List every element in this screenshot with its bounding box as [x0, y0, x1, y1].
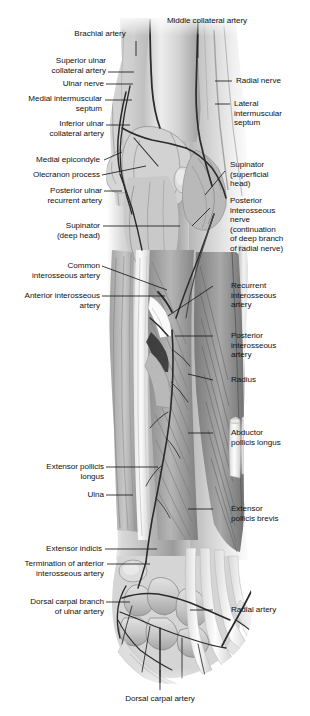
label-abductor-pollicis-longus: Abductor pollicis longus	[231, 428, 307, 447]
label-medial-intermuscular-septum: Medial intermuscular septum	[2, 94, 102, 113]
label-radius: Radius	[231, 375, 301, 385]
label-inferior-ulnar-collateral-artery: Inferior ulnar collateral artery	[8, 119, 104, 138]
anatomical-figure: Brachial artery Middle collateral artery…	[0, 0, 310, 716]
label-lateral-intermuscular-septum: Lateral intermuscular septum	[234, 99, 308, 128]
label-extensor-pollicis-brevis: Extensor pollicis brevis	[231, 504, 307, 523]
label-supinator-superficial-head: Supinator (superficial head)	[230, 160, 306, 189]
label-ulnar-nerve: Ulnar nerve	[8, 79, 104, 89]
label-radial-nerve: Radial nerve	[236, 76, 306, 86]
label-ulna: Ulna	[6, 490, 104, 500]
label-posterior-ulnar-recurrent-artery: Posterior ulnar recurrent artery	[6, 186, 102, 205]
label-recurrent-interosseous-artery: Recurrent interosseous artery	[231, 281, 305, 310]
label-superior-ulnar-collateral-artery: Superior ulnar collateral artery	[8, 56, 106, 75]
label-common-interosseous-artery: Common interosseous artery	[4, 261, 100, 280]
label-supinator-deep-head: Supinator (deep head)	[6, 221, 100, 240]
label-brachial-artery: Brachial artery	[58, 29, 142, 39]
label-dorsal-carpal-artery: Dorsal carpal artery	[110, 694, 210, 704]
label-olecranon-process: Olecranon process	[4, 170, 100, 180]
label-extensor-indicis: Extensor indicis	[6, 544, 102, 554]
label-termination-of-anterior-interosseous-artery: Termination of anterior interosseous art…	[2, 559, 104, 578]
label-middle-collateral-artery: Middle collateral artery	[152, 16, 262, 26]
label-radial-artery: Radial artery	[231, 605, 303, 615]
label-anterior-interosseous-artery: Anterior interosseous artery	[2, 291, 100, 310]
label-extensor-pollicis-longus: Extensor pollicis longus	[6, 462, 104, 481]
label-medial-epicondyle: Medial epicondyle	[6, 155, 100, 165]
label-posterior-interosseous-nerve: Posterior interosseous nerve (continuati…	[230, 196, 310, 254]
label-dorsal-carpal-branch-of-ulnar-artery: Dorsal carpal branch of ulnar artery	[4, 597, 104, 616]
label-posterior-interosseous-artery: Posterior interosseous artery	[231, 331, 305, 360]
